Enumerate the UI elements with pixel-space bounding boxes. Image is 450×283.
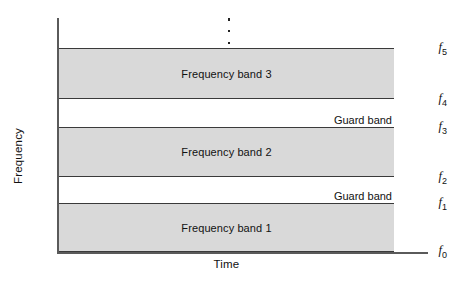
fdm-band-diagram: Frequency band 3 Guard band Frequency ba… bbox=[0, 0, 450, 283]
ellipsis-dot bbox=[228, 18, 231, 21]
guard-band-lower-label: Guard band bbox=[334, 190, 392, 202]
frequency-band-2: Frequency band 2 bbox=[59, 127, 394, 177]
x-axis-line bbox=[57, 252, 428, 254]
y-tick-f1-sub: 1 bbox=[442, 202, 447, 212]
y-tick-f0: f0 bbox=[394, 243, 450, 260]
guard-band-upper-label: Guard band bbox=[334, 114, 392, 126]
y-tick-f2-sub: 2 bbox=[442, 176, 447, 186]
y-tick-f5-sub: 5 bbox=[442, 47, 447, 57]
y-tick-f2: f2 bbox=[394, 169, 450, 186]
x-axis-title: Time bbox=[59, 258, 394, 270]
y-tick-f3: f3 bbox=[394, 119, 450, 136]
frequency-band-1-label: Frequency band 1 bbox=[59, 222, 394, 234]
y-axis-title: Frequency bbox=[12, 116, 24, 196]
y-tick-f5: f5 bbox=[394, 40, 450, 57]
vertical-ellipsis-icon bbox=[224, 18, 234, 44]
guard-band-upper: Guard band bbox=[59, 99, 394, 127]
frequency-band-3: Frequency band 3 bbox=[59, 48, 394, 99]
y-tick-f1: f1 bbox=[394, 195, 450, 212]
y-tick-f4-sub: 4 bbox=[442, 98, 447, 108]
frequency-band-2-label: Frequency band 2 bbox=[59, 146, 394, 158]
guard-band-lower: Guard band bbox=[59, 177, 394, 203]
ellipsis-dot bbox=[228, 42, 231, 45]
y-tick-f3-sub: 3 bbox=[442, 126, 447, 136]
frequency-band-3-label: Frequency band 3 bbox=[59, 68, 394, 80]
y-tick-f4: f4 bbox=[394, 91, 450, 108]
frequency-band-1: Frequency band 1 bbox=[59, 203, 394, 252]
ellipsis-dot bbox=[228, 30, 231, 33]
y-tick-f0-sub: 0 bbox=[442, 250, 447, 260]
